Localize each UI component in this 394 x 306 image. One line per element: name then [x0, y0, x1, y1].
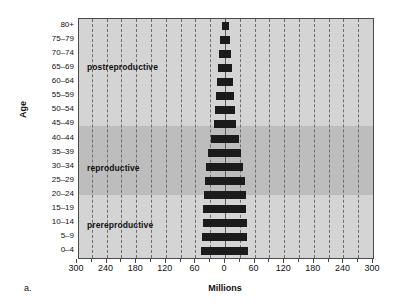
bar-female	[225, 106, 235, 114]
bar-male	[217, 78, 225, 86]
grid-line	[284, 19, 285, 258]
bar-male	[215, 106, 225, 114]
y-tick-70–74: 70–74	[40, 48, 74, 57]
bar-female	[225, 191, 246, 199]
y-tick-15–19: 15–19	[40, 203, 74, 212]
grid-line-minor	[329, 19, 330, 258]
bar-male	[201, 247, 225, 255]
bar-female	[225, 247, 248, 255]
y-tick-40–44: 40–44	[40, 133, 74, 142]
bar-male	[211, 135, 225, 143]
bar-female	[225, 233, 247, 241]
zone-label-reproductive: reproductive	[87, 163, 140, 173]
bar-female	[225, 64, 232, 72]
bar-male	[208, 149, 225, 157]
y-tick-60–64: 60–64	[40, 76, 74, 85]
bar-female	[225, 219, 247, 227]
y-axis-tick-labels: 80+75–7970–7465–6960–6455–5950–5445–4940…	[40, 18, 74, 257]
x-tick-mark-minor	[328, 259, 329, 262]
bar-male	[205, 177, 225, 185]
y-tick-5–9: 5–9	[40, 231, 74, 240]
grid-line-minor	[181, 19, 182, 258]
bar-male	[206, 163, 225, 171]
bar-male	[203, 205, 225, 213]
plot-area: postreproductivereproductiveprereproduct…	[78, 18, 374, 259]
grid-line	[314, 19, 315, 258]
y-tick-50–54: 50–54	[40, 104, 74, 113]
y-tick-80+: 80+	[40, 20, 74, 29]
bar-female	[225, 92, 234, 100]
bar-male	[204, 191, 225, 199]
y-tick-65–69: 65–69	[40, 62, 74, 71]
x-tick-mark-minor	[268, 259, 269, 262]
bar-female	[225, 36, 230, 44]
bar-female	[225, 50, 231, 58]
x-tick-mark-minor	[357, 259, 358, 262]
y-tick-10–14: 10–14	[40, 217, 74, 226]
bar-female	[225, 120, 236, 128]
x-tick-mark-minor	[239, 259, 240, 262]
x-tick-mark-minor	[180, 259, 181, 262]
y-tick-35–39: 35–39	[40, 147, 74, 156]
grid-line	[255, 19, 256, 258]
bar-male	[214, 120, 225, 128]
x-tick-mark-minor	[150, 259, 151, 262]
bar-female	[225, 135, 239, 143]
x-tick-10: 300	[352, 263, 392, 273]
y-tick-30–34: 30–34	[40, 161, 74, 170]
bar-female	[225, 205, 246, 213]
bar-female	[225, 177, 245, 185]
y-tick-25–29: 25–29	[40, 175, 74, 184]
y-tick-20–24: 20–24	[40, 189, 74, 198]
zone-label-prereproductive: prereproductive	[87, 220, 153, 230]
bar-female	[225, 149, 241, 157]
x-tick-mark-minor	[298, 259, 299, 262]
bar-female	[225, 22, 229, 30]
grid-line-minor	[299, 19, 300, 258]
bar-male	[203, 219, 225, 227]
grid-line-minor	[269, 19, 270, 258]
grid-line	[373, 19, 374, 258]
bar-male	[216, 92, 225, 100]
bar-female	[225, 78, 233, 86]
x-tick-mark-minor	[120, 259, 121, 262]
grid-line	[166, 19, 167, 258]
x-axis-title: Millions	[78, 283, 372, 293]
y-tick-0–4: 0–4	[40, 245, 74, 254]
grid-line	[343, 19, 344, 258]
y-tick-55–59: 55–59	[40, 90, 74, 99]
grid-line-minor	[358, 19, 359, 258]
bar-male	[202, 233, 225, 241]
x-axis-tick-labels: 30024018012060060120180240300	[78, 259, 372, 273]
x-tick-mark-minor	[91, 259, 92, 262]
grid-line	[195, 19, 196, 258]
panel-letter: a.	[24, 283, 32, 293]
zone-label-postreproductive: postreproductive	[87, 62, 158, 72]
population-pyramid-figure: Age 80+75–7970–7465–6960–6455–5950–5445–…	[0, 0, 394, 306]
bar-male	[218, 64, 225, 72]
y-tick-75–79: 75–79	[40, 34, 74, 43]
y-axis-title: Age	[18, 101, 28, 118]
x-tick-mark-minor	[209, 259, 210, 262]
bar-female	[225, 163, 243, 171]
y-tick-45–49: 45–49	[40, 118, 74, 127]
